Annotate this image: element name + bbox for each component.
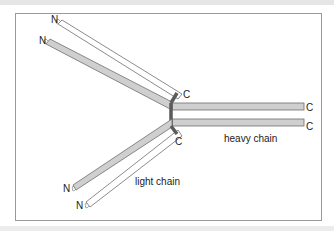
lower-horizontal-heavy-chain <box>172 119 304 126</box>
upper-heavy-c-label: C <box>306 102 313 113</box>
light-chain-label: light chain <box>135 176 180 187</box>
upper-light-n-label: N <box>51 14 58 25</box>
lower-heavy-n-label: N <box>63 183 70 194</box>
upper-horizontal-heavy-chain <box>172 103 304 110</box>
heavy-chain-label: heavy chain <box>224 133 277 144</box>
lower-disulfide-bond <box>171 126 177 134</box>
lower-light-c-label: C <box>175 136 182 147</box>
lower-light-n-label: N <box>76 200 83 211</box>
lower-heavy-c-label: C <box>306 121 313 132</box>
bottom-strip <box>0 226 334 231</box>
antibody-diagram: N N C C C C heavy chain light chain N N <box>0 0 334 231</box>
upper-light-c-label: C <box>183 89 190 100</box>
upper-heavy-n-label: N <box>39 35 46 46</box>
